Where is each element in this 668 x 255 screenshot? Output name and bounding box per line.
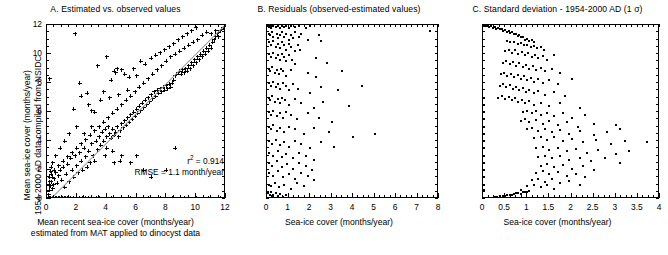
data-point [142, 81, 146, 85]
data-point [513, 41, 515, 43]
data-point [271, 143, 273, 145]
data-point [79, 159, 83, 163]
data-point [571, 78, 573, 80]
axis-tick [266, 176, 269, 177]
axis-tick [298, 24, 299, 27]
data-point [82, 146, 86, 150]
data-point [283, 36, 285, 38]
data-point [279, 34, 281, 36]
x-tick-label: 7 [405, 202, 429, 212]
data-point [178, 49, 182, 53]
data-point [522, 36, 524, 38]
data-point [78, 81, 82, 85]
data-point [185, 32, 189, 36]
data-point [173, 52, 177, 56]
axis-tick [582, 195, 583, 198]
axis-tick [266, 162, 269, 163]
axis-tick [266, 68, 269, 69]
data-point [277, 37, 279, 39]
axis-tick [554, 24, 555, 27]
data-point [506, 75, 508, 77]
axis-tick [320, 195, 321, 198]
data-point [290, 25, 292, 27]
data-point [341, 70, 343, 72]
data-point [514, 97, 516, 99]
data-point [280, 68, 282, 70]
data-point [75, 146, 79, 150]
data-point [285, 153, 287, 155]
axis-tick [656, 184, 659, 185]
axis-tick [379, 24, 380, 27]
data-point [123, 72, 127, 76]
data-point [277, 83, 279, 85]
data-point [126, 88, 130, 92]
data-point [546, 139, 548, 141]
data-point [553, 115, 555, 117]
data-point [522, 66, 524, 68]
axis-tick-major [309, 193, 310, 198]
axis-tick [482, 53, 485, 54]
axis-tick [482, 191, 485, 192]
axis-tick [222, 89, 225, 90]
axis-tick [620, 24, 621, 27]
data-point [575, 173, 577, 175]
axis-tick [222, 133, 225, 134]
axis-tick [222, 75, 225, 76]
axis-tick [587, 24, 588, 27]
axis-tick-major [76, 193, 77, 198]
axis-tick-major [165, 193, 166, 198]
data-point [521, 51, 523, 53]
data-point [212, 197, 216, 198]
panel-a-title: A. Estimated vs. observed values [0, 4, 231, 14]
data-point [277, 54, 279, 56]
axis-tick [433, 24, 434, 27]
axis-tick [165, 24, 166, 27]
data-point [61, 197, 65, 198]
data-point [276, 160, 278, 162]
axis-tick-major [106, 193, 107, 198]
axis-tick [435, 169, 438, 170]
data-point [298, 152, 300, 154]
data-point [281, 97, 283, 99]
axis-tick [222, 82, 225, 83]
axis-tick [435, 68, 438, 69]
data-point [511, 52, 513, 54]
data-point [499, 85, 501, 87]
axis-tick [150, 24, 151, 27]
axis-tick [499, 24, 500, 27]
data-point [64, 172, 68, 176]
axis-tick [427, 195, 428, 198]
data-point [553, 166, 555, 168]
axis-tick [482, 104, 485, 105]
data-point [530, 46, 532, 48]
axis-tick [222, 147, 225, 148]
axis-tick [656, 176, 659, 177]
axis-tick [266, 111, 269, 112]
axis-tick [266, 31, 269, 32]
axis-tick-major [46, 140, 51, 141]
data-point [508, 96, 510, 98]
axis-tick [482, 31, 485, 32]
data-point [49, 169, 53, 173]
axis-tick [46, 155, 49, 156]
axis-tick [271, 24, 272, 27]
axis-tick [435, 53, 438, 54]
data-point [533, 45, 535, 47]
data-point [91, 197, 95, 198]
data-point [528, 89, 530, 91]
data-point [537, 78, 539, 80]
data-point [61, 159, 65, 163]
data-point [275, 57, 277, 59]
data-point [537, 156, 539, 158]
axis-tick [46, 46, 49, 47]
axis-tick [363, 195, 364, 198]
data-point [557, 171, 559, 173]
data-point [299, 49, 301, 51]
x-tick-label: 4 [647, 202, 668, 212]
axis-tick [46, 68, 49, 69]
data-point [275, 192, 277, 194]
data-point [532, 65, 534, 67]
axis-tick [576, 195, 577, 198]
data-point [294, 26, 296, 28]
data-point [523, 44, 525, 46]
